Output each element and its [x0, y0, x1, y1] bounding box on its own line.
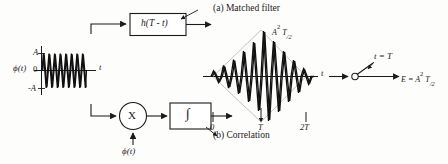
matched-filter-transfer-label: h(T - t) [141, 19, 168, 29]
correlator-reference-label: ϕ(t) [122, 147, 135, 156]
integrator-symbol-label: ∫ [186, 107, 190, 121]
energy-output-label: E = A2T/2 [401, 69, 435, 88]
output-peak-exponent: 2 [277, 23, 280, 30]
caption-correlation: (b) Correlation [213, 131, 270, 141]
energy-label-exponent: 2 [420, 70, 423, 77]
multiplier-symbol-label: X [128, 110, 136, 121]
matched-filter-correlation-figure: (a) Matched filter (b) Correlation ϕ(t) … [0, 0, 448, 164]
output-tick-label-0: 0 [210, 123, 214, 132]
switch-time-label: t = T [374, 52, 392, 61]
input-zero-label: 0 [33, 65, 37, 74]
energy-label-lhs: E = A [401, 75, 420, 84]
input-amplitude-negative-label: -A [28, 84, 36, 93]
caption-matched-filter: (a) Matched filter [213, 4, 280, 14]
sampling-switch [352, 62, 399, 80]
output-peak-label: A2T/2 [272, 22, 292, 41]
output-peak-denominator: 2 [288, 33, 291, 40]
input-signal-label: ϕ(t) [13, 64, 26, 73]
input-amplitude-positive-label: A [33, 48, 38, 57]
integrator-block [170, 103, 211, 129]
output-time-axis-label: t [321, 69, 323, 78]
input-time-axis-label: t [99, 63, 101, 72]
output-tick-label-T: T [258, 123, 263, 132]
output-tick-label-2T: 2T [300, 123, 309, 132]
energy-label-denominator: 2 [432, 80, 435, 87]
signal-split-wiring [91, 24, 126, 116]
